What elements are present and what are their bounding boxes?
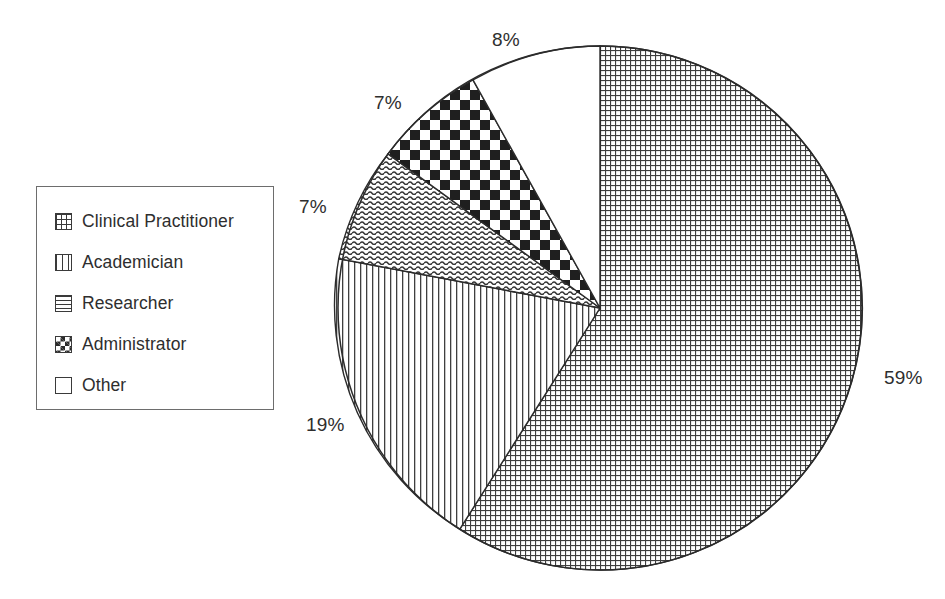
blank-swatch-icon bbox=[55, 377, 72, 394]
legend-item-academician: Academician bbox=[55, 242, 273, 283]
vertical-lines-swatch-icon bbox=[55, 254, 72, 271]
pie-label-researcher: 7% bbox=[299, 196, 327, 218]
pie-label-clinical-practitioner: 59% bbox=[884, 367, 923, 389]
pie-label-other: 8% bbox=[492, 29, 520, 51]
fine-grid-swatch-icon bbox=[55, 213, 72, 230]
legend-item-administrator: Administrator bbox=[55, 324, 273, 365]
pie-label-academician: 19% bbox=[306, 414, 345, 436]
legend-item-other: Other bbox=[55, 365, 273, 406]
pie-label-administrator: 7% bbox=[374, 92, 402, 114]
legend-label-other: Other bbox=[82, 375, 126, 396]
wavy-lines-swatch-icon bbox=[55, 295, 72, 312]
legend: Clinical Practitioner Academician Resear… bbox=[36, 186, 274, 410]
legend-label-administrator: Administrator bbox=[82, 334, 186, 355]
legend-label-academician: Academician bbox=[82, 252, 183, 273]
legend-item-researcher: Researcher bbox=[55, 283, 273, 324]
legend-label-clinical-practitioner: Clinical Practitioner bbox=[82, 211, 234, 232]
legend-label-researcher: Researcher bbox=[82, 293, 173, 314]
pie-chart-figure: 59% 19% 7% 7% 8% Clinical Practitioner A… bbox=[0, 0, 945, 599]
legend-item-clinical-practitioner: Clinical Practitioner bbox=[55, 201, 273, 242]
checkerboard-swatch-icon bbox=[55, 336, 72, 353]
